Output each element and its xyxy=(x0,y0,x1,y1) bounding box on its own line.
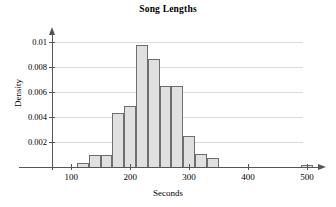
x-tick-label-200: 200 xyxy=(123,172,137,182)
x-tick-500 xyxy=(307,164,308,170)
y-tick-label-0.004: 0.004 xyxy=(28,112,47,122)
histogram-figure: Song Lengths 0.01 0.008 0.006 0.004 0.00… xyxy=(0,0,336,207)
y-axis-arrow xyxy=(49,27,55,35)
x-axis-arrow xyxy=(318,164,326,170)
plot-area: 0.01 0.008 0.006 0.004 0.002 100 200 300 xyxy=(0,0,336,207)
y-tick-label-0.008: 0.008 xyxy=(28,62,47,72)
histogram-bar xyxy=(101,155,113,168)
y-tick-label-0.01: 0.01 xyxy=(32,37,47,47)
histogram-bar xyxy=(136,45,148,168)
y-tick-label-0.006: 0.006 xyxy=(28,87,47,97)
gridline-0.008 xyxy=(52,67,303,68)
x-tick-label-400: 400 xyxy=(241,172,255,182)
x-tick-400 xyxy=(248,164,249,170)
histogram-bar xyxy=(195,154,207,168)
histogram-bar xyxy=(89,155,101,168)
x-tick-label-100: 100 xyxy=(64,172,78,182)
histogram-bar xyxy=(148,59,160,168)
histogram-bar xyxy=(207,158,219,168)
x-axis-line xyxy=(19,167,319,168)
histogram-bar xyxy=(124,106,136,167)
histogram-bar xyxy=(183,136,195,167)
histogram-bar xyxy=(171,86,183,167)
x-axis-title: Seconds xyxy=(0,188,336,198)
x-tick-300 xyxy=(189,164,190,170)
gridline-0.01 xyxy=(52,42,303,43)
y-axis-line xyxy=(52,34,53,170)
x-tick-200 xyxy=(130,164,131,170)
x-tick-label-500: 500 xyxy=(300,172,314,182)
histogram-bar xyxy=(160,86,172,167)
x-tick-label-300: 300 xyxy=(182,172,196,182)
y-tick-label-0.002: 0.002 xyxy=(28,137,47,147)
y-axis-title: Density xyxy=(13,63,23,123)
x-tick-100 xyxy=(71,164,72,170)
histogram-bar xyxy=(112,113,124,168)
